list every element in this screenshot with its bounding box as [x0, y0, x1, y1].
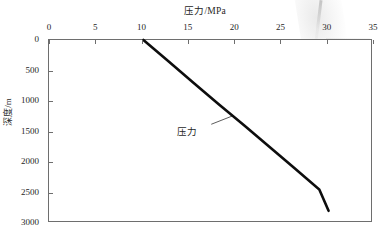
- x-axis-tick: [234, 40, 235, 44]
- y-axis-tick: [49, 101, 53, 102]
- y-axis-tick-label: 2000: [5, 156, 39, 166]
- x-axis-tick: [142, 40, 143, 44]
- y-axis-tick-label: 2500: [5, 187, 39, 197]
- y-axis-tick: [49, 193, 53, 194]
- y-axis-tick-label: 1000: [5, 95, 39, 105]
- x-axis-tick: [49, 40, 50, 44]
- data-layer: [49, 40, 373, 223]
- x-axis-tick: [188, 40, 189, 44]
- chart-title: 压力/MPa: [0, 3, 388, 17]
- y-axis-tick-label: 1500: [5, 126, 39, 136]
- y-axis-tick: [49, 71, 53, 72]
- pressure-series-line: [143, 40, 328, 211]
- y-axis-tick-label: 3000: [5, 217, 39, 227]
- x-axis-tick-label: 25: [267, 22, 293, 32]
- chart-figure: 压力/MPa 深度/m 压力 0510152025303505001000150…: [0, 0, 388, 242]
- x-axis-tick-label: 20: [221, 22, 247, 32]
- y-axis-tick-label: 500: [5, 65, 39, 75]
- x-axis-tick-label: 10: [129, 22, 155, 32]
- y-axis-tick-label: 0: [5, 34, 39, 44]
- y-axis-tick: [49, 132, 53, 133]
- annotation-leader-line: [211, 116, 233, 125]
- x-axis-tick-label: 5: [82, 22, 108, 32]
- x-axis-tick: [373, 40, 374, 44]
- plot-area: 压力 0510152025303505001000150020002500300…: [48, 39, 372, 222]
- x-axis-tick: [280, 40, 281, 44]
- x-axis-tick-label: 30: [314, 22, 340, 32]
- x-axis-tick-label: 0: [36, 22, 62, 32]
- y-axis-tick: [49, 162, 53, 163]
- x-axis-tick: [327, 40, 328, 44]
- x-axis-tick: [95, 40, 96, 44]
- x-axis-tick-label: 35: [360, 22, 386, 32]
- series-annotation-label: 压力: [177, 124, 197, 138]
- x-axis-tick-label: 15: [175, 22, 201, 32]
